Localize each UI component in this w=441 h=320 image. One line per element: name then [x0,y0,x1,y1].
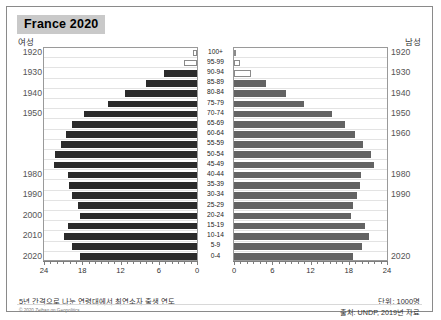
male-bar [234,80,266,87]
age-group-label: 35-39 [198,181,233,188]
axis-tick [172,261,173,264]
birth-year-label: 1950 [391,109,410,118]
male-bar [234,233,369,240]
table-row [44,201,197,211]
birth-year-label: 1980 [23,170,42,179]
female-bar [80,213,197,220]
axis-tick [266,261,267,264]
axis-tick [240,261,241,264]
footer-source: 출처: UNDP, 2019년 자료 [340,307,420,317]
table-row [234,160,387,170]
table-row [44,130,197,140]
table-row [44,99,197,109]
axis-tick [108,261,109,264]
axis-tick [114,261,115,264]
male-bar [234,223,365,230]
footer-copyright: © 2020 Zeihan on Geopolitics [19,308,80,313]
axis-tick [165,261,166,264]
age-group-label: 90-94 [198,69,233,76]
male-bar [234,172,361,179]
axis-tick [121,261,122,265]
age-group-label: 0-4 [198,253,233,260]
footer-divider [17,304,422,305]
male-bar [234,111,332,118]
table-row [234,58,387,68]
axis-tick-label: 12 [306,266,314,275]
table-row [44,170,197,180]
male-bar [234,60,240,67]
axis-tick [285,261,286,264]
axis-tick [272,261,273,265]
age-group-label: 95-99 [198,59,233,66]
axis-tick [291,261,292,264]
table-row [234,221,387,231]
female-bar [68,172,197,179]
birth-year-label: 1990 [23,190,42,199]
table-row [234,109,387,119]
axis-tick [191,261,192,264]
table-row [234,231,387,241]
birth-year-column-right: 19201930194019501960198019902020 [390,47,424,261]
male-bar [234,121,345,128]
table-row [44,211,197,221]
axis-tick [362,261,363,264]
female-bar [84,111,197,118]
table-row [234,130,387,140]
axis-tick-label: 24 [40,266,48,275]
male-bar [234,253,353,260]
table-row [44,150,197,160]
table-row [44,89,197,99]
axis-tick [298,261,299,264]
axis-tick [368,261,369,264]
axis-tick [247,261,248,264]
axis-tick [355,261,356,264]
male-bar [234,243,362,250]
axis-tick [146,261,147,264]
axis-tick [374,261,375,264]
axis-tick [304,261,305,264]
pyramid-plot: 192019301940195019801990200020102020 100… [7,47,434,279]
axis-tick-label: 6 [157,266,161,275]
age-group-label: 60-64 [198,130,233,137]
axis-tick [127,261,128,264]
axis-tick [101,261,102,264]
table-row [44,68,197,78]
table-row [234,99,387,109]
male-bar [234,50,236,57]
male-bar [234,213,351,220]
female-bar [164,70,197,77]
axis-tick [44,261,45,265]
axis-tick [50,261,51,264]
age-group-label: 40-44 [198,171,233,178]
age-group-label: 55-59 [198,140,233,147]
axis-tick [253,261,254,264]
male-bar [234,151,371,158]
x-axis-female: 06121824 [43,261,198,277]
age-group-label: 10-14 [198,232,233,239]
axis-tick [152,261,153,264]
birth-year-label: 1920 [23,48,42,57]
male-bar [234,101,304,108]
axis-tick [381,261,382,264]
axis-tick-label: 24 [383,266,391,275]
female-bar [55,151,197,158]
axis-tick-label: 6 [270,266,274,275]
axis-tick [349,261,350,265]
female-bar [184,60,197,67]
table-row [44,58,197,68]
table-row [44,79,197,89]
axis-tick [70,261,71,264]
age-group-label: 25-29 [198,202,233,209]
age-group-label: 50-54 [198,151,233,158]
table-row [234,170,387,180]
table-row [234,140,387,150]
female-bar [78,202,197,209]
male-bar [234,202,353,209]
table-row [44,221,197,231]
female-panel [43,47,198,261]
axis-tick [184,261,185,264]
birth-year-label: 1920 [391,48,410,57]
birth-year-label: 1960 [391,129,410,138]
table-row [44,191,197,201]
chart-frame: France 2020 여성 남성 1920193019401950198019… [6,6,433,312]
